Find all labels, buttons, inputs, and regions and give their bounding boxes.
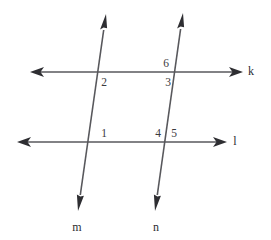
line-m [77,14,107,211]
line-l [17,137,227,147]
angle-label-1: 1 [101,127,107,139]
line-k [30,67,243,77]
line-m-top-arrowhead [100,14,107,29]
line-label-k: k [248,64,254,78]
line-label-m: m [72,220,82,234]
line-label-l: l [233,134,237,148]
line-n-bottom-arrowhead [154,195,161,211]
angle-label-3: 3 [165,76,171,88]
angle-label-4: 4 [155,127,161,139]
line-n-segment [157,29,180,195]
line-label-n: n [153,220,159,234]
geometry-figure: k l m n 1 2 3 4 5 6 [0,0,271,240]
line-m-segment [80,30,103,195]
angle-label-2: 2 [101,76,107,88]
line-n [154,13,184,211]
line-n-top-arrowhead [177,13,184,28]
geometry-diagram-canvas: k l m n 1 2 3 4 5 6 [0,0,271,240]
line-m-bottom-arrowhead [77,195,84,211]
angle-label-5: 5 [171,127,177,139]
angle-label-6: 6 [163,57,169,69]
